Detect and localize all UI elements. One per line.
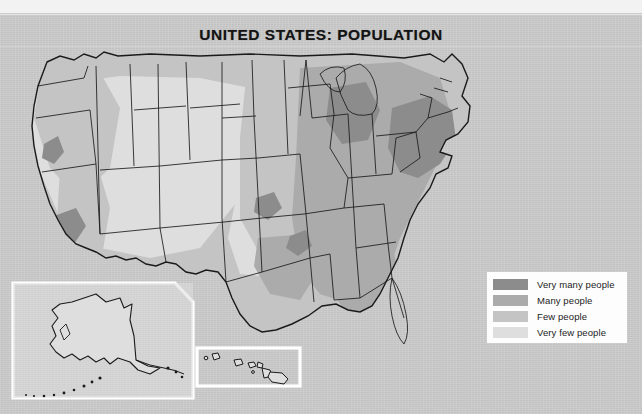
legend-label-very-few-people: Very few people <box>537 327 606 338</box>
hawaii-inset[interactable] <box>197 348 300 386</box>
population-density-legend: Very many people Many people Few people … <box>487 272 627 343</box>
scan-line <box>0 14 642 15</box>
legend-swatch-many-people <box>493 295 528 306</box>
legend-item[interactable]: Few people <box>493 308 627 324</box>
map-container <box>0 48 642 414</box>
legend-swatch-few-people <box>493 311 528 322</box>
legend-item[interactable]: Very few people <box>493 324 627 340</box>
legend-swatch-very-many-people <box>493 279 528 290</box>
page-title: UNITED STATES: POPULATION <box>0 26 642 44</box>
legend-item[interactable]: Very many people <box>493 276 627 292</box>
map-page: UNITED STATES: POPULATION <box>0 0 642 414</box>
alaska-inset[interactable] <box>13 283 193 398</box>
legend-item[interactable]: Many people <box>493 292 627 308</box>
hawaii-islands <box>204 353 288 384</box>
legend-label-very-many-people: Very many people <box>537 279 615 290</box>
legend-label-many-people: Many people <box>537 295 593 306</box>
page-top-margin <box>0 0 642 13</box>
legend-label-few-people: Few people <box>537 311 587 322</box>
legend-swatch-very-few-people <box>493 327 528 338</box>
united-states-map[interactable] <box>0 48 642 414</box>
scan-line <box>0 46 642 47</box>
